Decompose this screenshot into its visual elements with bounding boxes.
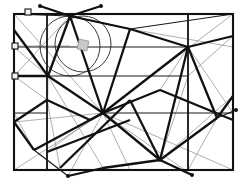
thick-line-segment (103, 160, 160, 168)
thick-line-segment (70, 16, 130, 29)
thick-line-segment (188, 36, 233, 47)
thick-line-segment (103, 113, 160, 160)
thick-line-segment (70, 16, 103, 113)
right-angle-marker (77, 39, 89, 51)
hub-top (68, 14, 72, 18)
geometric-diagram-figure (0, 0, 249, 184)
marker-right-edge (234, 108, 238, 112)
marker-left-edge-mid (12, 73, 18, 79)
thick-line-segment (47, 100, 90, 120)
hub-center (101, 111, 105, 115)
marker-top-left-corner (25, 9, 31, 15)
thin-line-segment (47, 100, 60, 168)
thick-line-segment (103, 29, 130, 113)
point-marker-group (12, 4, 238, 178)
thick-line-segment (130, 29, 188, 47)
thick-line-segment (48, 76, 103, 113)
marker-left-edge-upper (12, 43, 18, 49)
thin-line-segment (14, 14, 103, 113)
hub-left (46, 74, 50, 78)
hub-bottom (158, 158, 162, 162)
thin-line-segment (188, 118, 217, 170)
thick-line-segment (103, 90, 160, 113)
thin-line-segment (14, 76, 47, 100)
mid-line-segment (34, 150, 68, 176)
angle-marker-group (77, 39, 89, 51)
marker-below-bottom-right (190, 173, 194, 177)
diagram-canvas (0, 0, 249, 184)
marker-above-top-right (99, 4, 103, 8)
marker-above-top-left (38, 4, 42, 8)
thick-line-segment (130, 100, 160, 160)
thick-line-segment (14, 30, 48, 76)
marker-below-bottom-left (66, 174, 70, 178)
thick-line-segment (14, 100, 47, 122)
thick-line-segment (14, 122, 34, 150)
mid-line-segment (130, 14, 233, 29)
